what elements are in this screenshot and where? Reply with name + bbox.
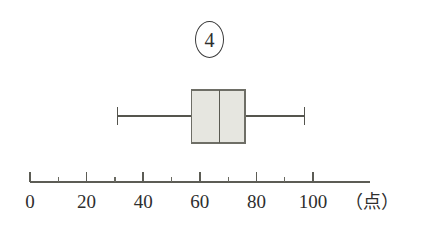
axis-label-80: 80 — [240, 192, 272, 211]
interquartile-box — [191, 90, 245, 143]
axis-label-60: 60 — [184, 192, 216, 211]
axis-label-40: 40 — [127, 192, 159, 211]
panel-number-label: 4 — [205, 29, 215, 49]
panel-number-badge: 4 — [195, 21, 224, 58]
box-group — [191, 90, 245, 143]
axis-unit-label: （点） — [345, 193, 399, 211]
box-plot-figure: 4 0 20 40 60 80 100 （点） — [0, 0, 434, 236]
number-line-axis — [30, 172, 370, 182]
axis-label-100: 100 — [294, 192, 332, 211]
axis-label-0: 0 — [14, 192, 46, 211]
axis-label-20: 20 — [71, 192, 103, 211]
